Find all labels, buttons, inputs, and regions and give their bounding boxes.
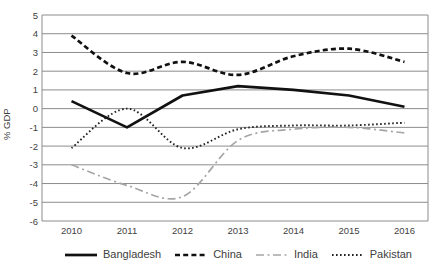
legend: BangladeshChinaIndiaPakistan: [0, 249, 442, 260]
x-tick-label: 2015: [338, 225, 359, 236]
y-tick-label: 4: [33, 28, 38, 39]
y-tick-label: 5: [33, 10, 38, 21]
y-tick-label: -4: [30, 178, 38, 189]
y-tick-label: -6: [30, 216, 38, 227]
series-line-india: [72, 127, 405, 199]
y-tick-label: -5: [30, 197, 38, 208]
legend-item-bangladesh: Bangladesh: [64, 249, 161, 260]
y-tick-label: 3: [33, 47, 38, 58]
legend-label: China: [213, 249, 242, 260]
legend-item-china: China: [174, 249, 242, 260]
legend-item-pakistan: Pakistan: [331, 249, 412, 260]
x-tick-label: 2014: [283, 225, 304, 236]
x-tick-label: 2013: [227, 225, 248, 236]
series-line-china: [72, 36, 405, 75]
legend-swatch-dashdot-line: [255, 251, 289, 259]
x-tick-label: 2016: [394, 225, 415, 236]
legend-label: Pakistan: [370, 249, 412, 260]
y-axis-title: % GDP: [1, 108, 12, 140]
legend-label: Bangladesh: [103, 249, 161, 260]
legend-item-india: India: [255, 249, 318, 260]
y-tick-label: 1: [33, 84, 38, 95]
x-tick-label: 2010: [61, 225, 82, 236]
chart: 543210-1-2-3-4-5-62010201120122013201420…: [0, 0, 442, 265]
legend-swatch-solid-line: [64, 251, 98, 259]
y-tick-label: -1: [30, 122, 38, 133]
y-tick-label: 2: [33, 66, 38, 77]
y-tick-label: 0: [33, 103, 38, 114]
y-tick-label: -3: [30, 159, 38, 170]
x-tick-label: 2011: [117, 225, 137, 236]
plot-area: 543210-1-2-3-4-5-62010201120122013201420…: [0, 0, 442, 240]
legend-swatch-dotted-line: [331, 251, 365, 259]
legend-swatch-dashed-line: [174, 251, 208, 259]
y-tick-label: -2: [30, 141, 38, 152]
legend-label: India: [294, 249, 318, 260]
x-tick-label: 2012: [172, 225, 193, 236]
series-line-bangladesh: [72, 86, 405, 127]
series-line-pakistan: [72, 109, 405, 149]
